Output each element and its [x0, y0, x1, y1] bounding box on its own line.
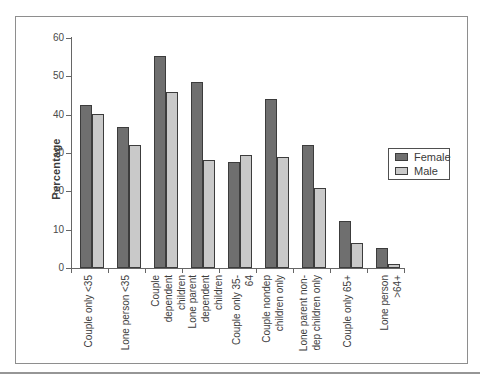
- bar-male-3: [203, 160, 215, 268]
- y-tick: [66, 76, 71, 77]
- y-tick-label: 40: [38, 109, 64, 121]
- bar-male-2: [166, 92, 178, 268]
- x-tick: [256, 269, 257, 273]
- x-tick: [71, 269, 72, 273]
- male-swatch-icon: [395, 167, 408, 175]
- bar-female-4: [228, 162, 240, 268]
- x-tick: [404, 269, 405, 273]
- bar-female-3: [191, 82, 203, 268]
- x-axis: [71, 268, 405, 269]
- x-axis-category-label: Couple only 35-64: [230, 275, 256, 355]
- y-tick: [66, 230, 71, 231]
- figure-canvas: Percentage Female Male 0102030405060Coup…: [0, 0, 480, 380]
- y-tick: [66, 38, 71, 39]
- x-axis-category-label: Lone person <35: [119, 275, 132, 355]
- bar-male-6: [314, 188, 326, 269]
- x-tick: [108, 269, 109, 273]
- x-axis-category-label: Lone person >64+: [378, 275, 404, 355]
- x-axis-category-label: Couple dependent children: [149, 275, 188, 355]
- bar-female-8: [376, 248, 388, 268]
- x-axis-category-label: Couple nondep children only: [260, 275, 286, 355]
- x-axis-category-label: Lone parent dependent children: [186, 275, 225, 355]
- bar-male-7: [351, 243, 363, 268]
- legend-label-male: Male: [414, 166, 438, 177]
- y-tick-label: 10: [38, 224, 64, 236]
- legend-item-male: Male: [395, 166, 443, 177]
- bar-male-1: [129, 145, 141, 268]
- x-tick: [367, 269, 368, 273]
- bar-female-5: [265, 99, 277, 268]
- y-tick-label: 60: [38, 32, 64, 44]
- bar-female-7: [339, 221, 351, 268]
- legend: Female Male: [388, 148, 450, 180]
- y-tick-label: 30: [38, 147, 64, 159]
- y-tick: [66, 115, 71, 116]
- y-tick-label: 50: [38, 70, 64, 82]
- x-tick: [293, 269, 294, 273]
- y-tick: [66, 191, 71, 192]
- x-axis-category-label: Couple only 65+: [341, 275, 354, 355]
- bar-male-0: [92, 114, 104, 268]
- bar-male-5: [277, 157, 289, 268]
- legend-item-female: Female: [395, 152, 443, 163]
- x-tick: [330, 269, 331, 273]
- bar-female-6: [302, 145, 314, 268]
- bar-female-1: [117, 127, 129, 268]
- bar-male-4: [240, 155, 252, 268]
- page-rule: [0, 372, 480, 374]
- y-tick-label: 20: [38, 185, 64, 197]
- x-axis-category-label: Lone parent non- dep children only: [297, 275, 323, 355]
- bar-female-2: [154, 56, 166, 268]
- figure-frame: Percentage Female Male 0102030405060Coup…: [15, 16, 468, 364]
- bar-female-0: [80, 105, 92, 268]
- x-axis-category-label: Couple only <35: [82, 275, 95, 355]
- y-tick-label: 0: [38, 262, 64, 274]
- x-tick: [145, 269, 146, 273]
- legend-label-female: Female: [414, 152, 451, 163]
- y-tick: [66, 153, 71, 154]
- y-axis: [71, 37, 72, 268]
- x-tick: [182, 269, 183, 273]
- female-swatch-icon: [395, 153, 408, 161]
- x-tick: [219, 269, 220, 273]
